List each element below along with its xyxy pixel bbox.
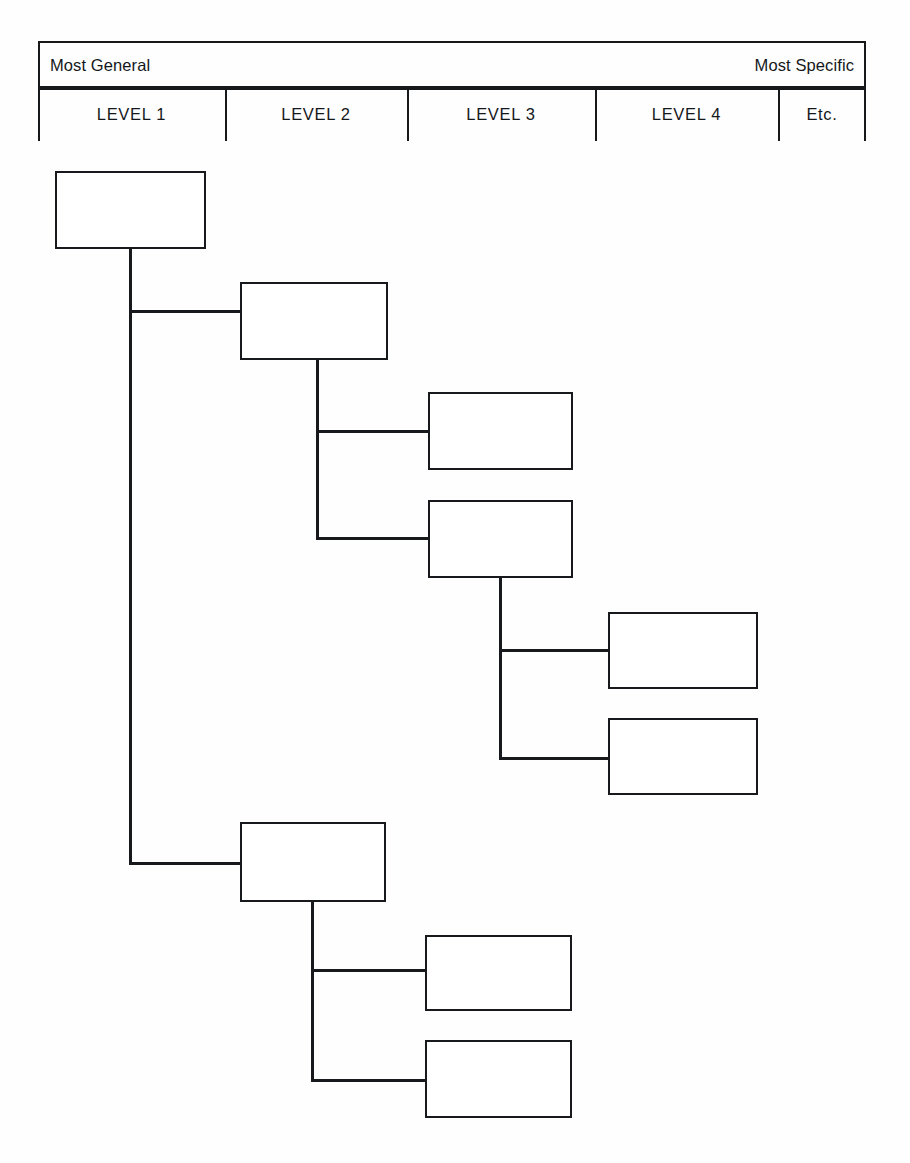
node-box-level-2-b[interactable] bbox=[240, 822, 386, 902]
node-box-level-3-d[interactable] bbox=[425, 1040, 572, 1118]
node-box-level-3-c[interactable] bbox=[425, 935, 572, 1011]
diagram-canvas: Most General Most Specific LEVEL 1 LEVEL… bbox=[0, 0, 910, 1163]
connector-node4-to-node5 bbox=[499, 649, 611, 652]
connector-root-to-node2 bbox=[129, 310, 242, 313]
connector-node7-trunk bbox=[311, 901, 314, 1082]
connector-node4-to-node6 bbox=[499, 757, 611, 760]
connector-node7-to-node8 bbox=[311, 969, 428, 972]
node-box-level-4-a[interactable] bbox=[608, 612, 758, 689]
node-box-level-1[interactable] bbox=[55, 171, 206, 249]
node-box-level-3-a[interactable] bbox=[428, 392, 573, 470]
connector-node2-trunk bbox=[316, 359, 319, 540]
connector-node2-to-node4 bbox=[316, 537, 430, 540]
node-box-level-4-b[interactable] bbox=[608, 718, 758, 795]
connector-node4-trunk bbox=[499, 577, 502, 760]
connector-node2-to-node3 bbox=[316, 430, 430, 433]
hierarchy-tree bbox=[0, 0, 910, 1163]
node-box-level-2-a[interactable] bbox=[240, 282, 388, 360]
node-box-level-3-b[interactable] bbox=[428, 500, 573, 578]
connector-root-to-node7 bbox=[129, 862, 242, 865]
connector-node7-to-node9 bbox=[311, 1079, 428, 1082]
connector-root-trunk bbox=[129, 248, 132, 865]
